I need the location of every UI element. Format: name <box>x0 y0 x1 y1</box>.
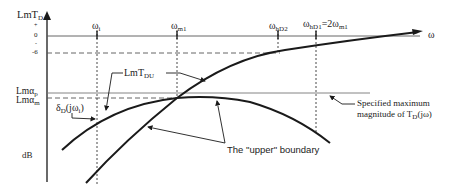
lm-alpha-m-label: Lmαm <box>16 96 40 107</box>
spec-max-leader <box>330 96 355 104</box>
lmt-du-label: LmTDU <box>124 68 154 80</box>
lmt-du-leader-right <box>166 73 205 81</box>
bode-diagram <box>0 0 455 191</box>
lmt-du-leader-left <box>106 73 123 110</box>
tick-minus-six: -6 <box>32 49 38 56</box>
omega-hd2-label: ωhD2 <box>269 21 288 33</box>
upper-boundary-leader-right <box>217 101 225 143</box>
y-axis <box>43 11 51 182</box>
omega-m1-label: ωm1 <box>171 21 187 33</box>
delta-label: δD(jωi) <box>56 103 84 115</box>
db-unit-label: dB <box>22 151 33 160</box>
upper-boundary-curve <box>62 97 330 150</box>
omega-hd1-label: ωhD1=2ωm1 <box>303 19 348 31</box>
tick-minus: - <box>35 40 37 46</box>
spec-max-label: Specified maximum magnitude of TD(jω) <box>357 98 432 123</box>
upper-boundary-label: The "upper" boundary <box>227 145 319 155</box>
omega-i-label: ωi <box>92 21 101 33</box>
tick-plus: + <box>34 22 37 28</box>
tick-zero: 0 <box>34 32 38 39</box>
upper-boundary-leader-left <box>148 127 225 143</box>
x-axis-label: ω <box>428 30 435 40</box>
y-axis-label: LmTD <box>17 10 43 22</box>
